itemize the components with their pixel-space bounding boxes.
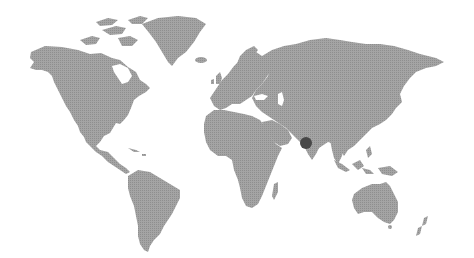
caribbean [128,148,146,156]
new-zealand [416,216,428,236]
arctic-islands [80,16,148,46]
continent-north-america [30,46,150,146]
continent-south-america [128,170,180,252]
world-map-svg [0,0,474,258]
central-america [90,146,130,174]
british-isles [211,72,222,84]
iceland [195,57,207,63]
tasmania [388,225,392,229]
madagascar [272,182,278,200]
continent-australia [352,182,398,224]
world-map [0,0,474,258]
location-marker[interactable] [300,137,312,149]
